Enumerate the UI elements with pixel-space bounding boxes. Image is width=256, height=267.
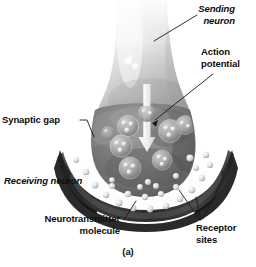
molecule <box>163 203 170 210</box>
molecule <box>147 206 154 213</box>
molecule <box>109 183 115 189</box>
molecule <box>73 157 79 163</box>
vesicle <box>138 104 156 122</box>
molecule <box>177 196 184 203</box>
label-sending-neuron: Sending neuron <box>165 3 235 26</box>
molecule <box>158 191 164 197</box>
molecule <box>193 165 199 171</box>
vesicle <box>118 116 139 137</box>
label-neurotransmitter-molecule: Neurotransmitter molecule <box>2 213 120 236</box>
label-receiving-neuron: Receiving neuron <box>4 175 98 187</box>
molecule <box>125 191 131 197</box>
molecule <box>173 184 179 190</box>
molecule <box>186 154 193 161</box>
label-synaptic-gap: Synaptic gap <box>2 114 78 126</box>
molecule <box>116 200 123 207</box>
molecule <box>207 162 213 168</box>
vesicle <box>101 126 115 140</box>
figure-caption: (a) <box>110 246 146 258</box>
label-receptor-sites: Receptor sites <box>196 222 248 245</box>
molecule <box>103 192 110 199</box>
label-action-potential: Action potential <box>201 46 255 69</box>
molecule <box>199 175 205 181</box>
molecule <box>203 152 209 158</box>
vesicle <box>110 135 132 157</box>
vesicle <box>119 157 141 179</box>
molecule <box>142 194 148 200</box>
molecule <box>189 187 196 194</box>
vesicle <box>152 150 172 170</box>
figure-container: Sending neuron Action potential Synaptic… <box>0 0 256 267</box>
